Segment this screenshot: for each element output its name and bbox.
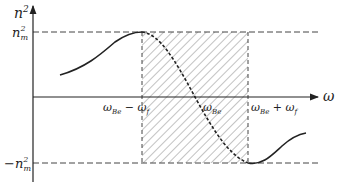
x-axis-label: ω xyxy=(323,88,335,104)
x-tick-right-label: ωBe + ωf xyxy=(251,101,298,116)
x-tick-left-label: ωBe − ωf xyxy=(103,101,150,116)
curve-right-solid xyxy=(248,133,306,164)
upper-level-label: n2m xyxy=(12,24,28,42)
curve-left-solid xyxy=(60,32,142,75)
lower-level-label: −n2m xyxy=(4,155,31,173)
y-axis-label: n2 xyxy=(14,4,29,21)
dispersion-diagram: n2 n2m −n2m ωBe − ωf ωBe ωBe + ωf ω xyxy=(0,0,339,188)
